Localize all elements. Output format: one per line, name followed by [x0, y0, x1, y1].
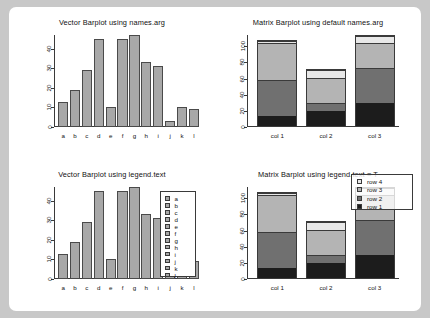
bar[interactable]: [82, 70, 92, 127]
bar-segment[interactable]: [307, 103, 345, 111]
bar-segment[interactable]: [307, 222, 345, 230]
legend-swatch-icon: [165, 224, 170, 229]
bar-segment[interactable]: [356, 103, 394, 126]
bar-segment[interactable]: [356, 68, 394, 104]
bar[interactable]: [141, 214, 151, 279]
legend-item[interactable]: d: [165, 216, 195, 223]
legend-item[interactable]: l: [165, 272, 195, 279]
legend-item[interactable]: h: [165, 244, 195, 251]
bar[interactable]: [94, 191, 104, 279]
bar[interactable]: [58, 102, 68, 127]
legend-item[interactable]: g: [165, 237, 195, 244]
x-axis-tick-label: g: [133, 132, 136, 139]
legend-item[interactable]: f: [165, 230, 195, 237]
legend-item[interactable]: c: [165, 209, 195, 216]
y-axis-tick-label: 80: [239, 62, 246, 69]
bar[interactable]: [106, 107, 116, 127]
x-axis-tick-label: c: [85, 284, 88, 291]
bar-segment[interactable]: [356, 220, 394, 256]
legend-item[interactable]: row 4: [357, 178, 412, 186]
legend-swatch-icon: [165, 266, 170, 271]
y-axis-line: [54, 35, 55, 127]
bar-segment[interactable]: [307, 263, 345, 278]
legend-item[interactable]: j: [165, 258, 195, 265]
bar[interactable]: [129, 187, 139, 279]
bar-segment[interactable]: [307, 255, 345, 263]
bar-segment[interactable]: [356, 255, 394, 278]
y-axis-tick-label: 0: [46, 127, 53, 130]
x-axis-tick-label: e: [109, 284, 112, 291]
panel-vector-names: Vector Barplot using names.arg 010203040…: [9, 7, 215, 159]
bar[interactable]: [70, 242, 80, 279]
x-axis-tick-label: f: [122, 284, 124, 291]
stacked-bar[interactable]: [306, 69, 346, 127]
y-axis-tick-label: 60: [239, 79, 246, 86]
legend-item[interactable]: a: [165, 195, 195, 202]
bar[interactable]: [153, 66, 163, 127]
bar[interactable]: [177, 107, 187, 127]
plot-area-matrix-default: 020406080100col 1col 2col 3: [247, 35, 399, 127]
x-axis-tick-label: f: [122, 132, 124, 139]
chart-legend: row 4row 3row 2row 1: [351, 174, 413, 210]
y-axis-tick-label: 20: [239, 263, 246, 270]
bar-segment[interactable]: [258, 80, 296, 115]
bar[interactable]: [82, 222, 92, 279]
bar[interactable]: [106, 259, 116, 279]
x-axis-tick-label: h: [145, 284, 148, 291]
x-axis-tick-label: k: [180, 284, 183, 291]
legend-label: a: [175, 195, 178, 202]
legend-item[interactable]: row 2: [357, 194, 412, 202]
bar-segment[interactable]: [258, 116, 296, 126]
stacked-bar[interactable]: [257, 40, 297, 127]
legend-item[interactable]: row 1: [357, 203, 412, 211]
legend-label: j: [175, 258, 176, 265]
legend-item[interactable]: i: [165, 251, 195, 258]
panel-title: Vector Barplot using legend.text: [9, 170, 215, 179]
bar-segment[interactable]: [356, 43, 394, 67]
stacked-bar[interactable]: [257, 192, 297, 279]
legend-item[interactable]: e: [165, 223, 195, 230]
y-axis-tick-label: 0: [239, 279, 246, 282]
bar-segment[interactable]: [258, 232, 296, 267]
bar-segment[interactable]: [307, 111, 345, 126]
legend-item[interactable]: k: [165, 265, 195, 272]
bar[interactable]: [58, 254, 68, 279]
legend-swatch-icon: [165, 273, 170, 278]
bar[interactable]: [117, 39, 127, 127]
panel-matrix-legend: Matrix Barplot using legend.text = T 020…: [215, 159, 421, 311]
bar[interactable]: [117, 191, 127, 279]
legend-item[interactable]: b: [165, 202, 195, 209]
bar[interactable]: [94, 39, 104, 127]
y-axis-tick-label: 10: [46, 259, 53, 266]
legend-swatch-icon: [165, 252, 170, 257]
bar-segment[interactable]: [258, 268, 296, 278]
y-axis-tick-label: 100: [239, 46, 246, 56]
x-axis-tick-label: l: [193, 284, 194, 291]
y-axis-tick-label: 20: [239, 111, 246, 118]
x-axis-tick-label: k: [180, 132, 183, 139]
bar[interactable]: [129, 35, 139, 127]
bar-segment[interactable]: [307, 70, 345, 78]
legend-label: h: [175, 244, 178, 251]
stacked-bar[interactable]: [355, 35, 395, 127]
bar-segment[interactable]: [258, 43, 296, 80]
legend-label: f: [175, 230, 177, 237]
legend-swatch-icon: [165, 203, 170, 208]
legend-item[interactable]: row 3: [357, 186, 412, 194]
bar-segment[interactable]: [307, 230, 345, 256]
bar-segment[interactable]: [307, 78, 345, 104]
bar[interactable]: [189, 109, 199, 127]
bar-segment[interactable]: [258, 195, 296, 232]
legend-swatch-icon: [357, 196, 362, 201]
legend-label: d: [175, 216, 178, 223]
legend-swatch-icon: [165, 210, 170, 215]
bar[interactable]: [141, 62, 151, 127]
y-axis-tick-label: 80: [239, 214, 246, 221]
x-axis-tick-label: col 1: [271, 132, 284, 139]
stacked-bar[interactable]: [306, 221, 346, 279]
x-axis-tick-label: i: [158, 132, 159, 139]
bar[interactable]: [70, 90, 80, 127]
bar-segment[interactable]: [356, 36, 394, 43]
bar[interactable]: [165, 121, 175, 127]
x-axis-tick-label: a: [61, 132, 64, 139]
